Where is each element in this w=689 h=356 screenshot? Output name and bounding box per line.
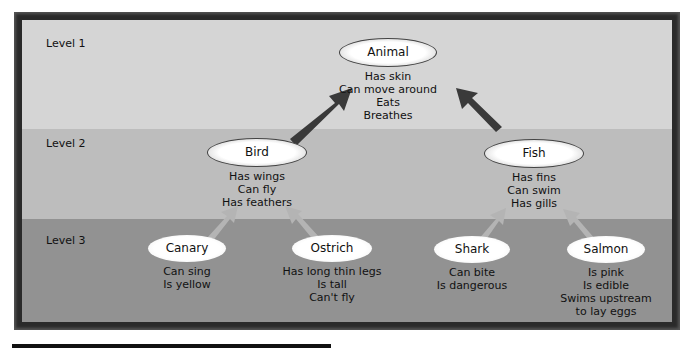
bird-name: Bird: [245, 145, 269, 159]
canary-properties: Can sing Is yellow: [142, 265, 232, 291]
fish-prop: Has gills: [479, 197, 589, 210]
diagram-canvas: Level 1 Level 2 Level 3: [22, 20, 672, 322]
horizontal-rule: [12, 344, 331, 348]
diagram-frame: Level 1 Level 2 Level 3: [14, 12, 680, 330]
bird-prop: Has feathers: [202, 196, 312, 209]
node-shark: Shark Can bite Is dangerous: [422, 236, 522, 292]
node-ostrich: Ostrich Has long thin legs Is tall Can't…: [272, 235, 392, 304]
arrow-fish-to-animal: [456, 88, 502, 132]
node-canary: Canary Can sing Is yellow: [142, 235, 232, 291]
fish-name: Fish: [522, 146, 545, 160]
canary-prop: Is yellow: [142, 278, 232, 291]
animal-prop: Can move around: [328, 83, 448, 96]
ostrich-prop: Is tall: [272, 278, 392, 291]
fish-prop: Can swim: [479, 184, 589, 197]
animal-oval: Animal: [339, 38, 437, 67]
bird-oval: Bird: [207, 138, 307, 167]
salmon-name: Salmon: [584, 242, 629, 256]
shark-oval: Shark: [434, 236, 510, 263]
canary-prop: Can sing: [142, 265, 232, 278]
salmon-oval: Salmon: [567, 236, 645, 263]
animal-properties: Has skin Can move around Eats Breathes: [328, 70, 448, 122]
canary-name: Canary: [166, 241, 209, 255]
node-bird: Bird Has wings Can fly Has feathers: [202, 138, 312, 209]
ostrich-prop: Has long thin legs: [272, 265, 392, 278]
fish-prop: Has fins: [479, 171, 589, 184]
shark-prop: Is dangerous: [422, 279, 522, 292]
salmon-prop: to lay eggs: [551, 305, 661, 318]
node-fish: Fish Has fins Can swim Has gills: [479, 139, 589, 210]
shark-properties: Can bite Is dangerous: [422, 266, 522, 292]
animal-prop: Eats: [328, 96, 448, 109]
salmon-properties: Is pink Is edible Swims upstream to lay …: [551, 266, 661, 318]
salmon-prop: Is pink: [551, 266, 661, 279]
fish-properties: Has fins Can swim Has gills: [479, 171, 589, 210]
node-salmon: Salmon Is pink Is edible Swims upstream …: [551, 236, 661, 318]
salmon-prop: Swims upstream: [551, 292, 661, 305]
fish-oval: Fish: [484, 139, 584, 168]
node-animal: Animal Has skin Can move around Eats Bre…: [328, 38, 448, 122]
animal-name: Animal: [367, 45, 409, 59]
bird-properties: Has wings Can fly Has feathers: [202, 170, 312, 209]
ostrich-name: Ostrich: [311, 241, 354, 255]
shark-name: Shark: [455, 242, 489, 256]
ostrich-oval: Ostrich: [292, 235, 372, 262]
shark-prop: Can bite: [422, 266, 522, 279]
salmon-prop: Is edible: [551, 279, 661, 292]
animal-prop: Has skin: [328, 70, 448, 83]
ostrich-prop: Can't fly: [272, 291, 392, 304]
canary-oval: Canary: [148, 235, 226, 262]
bird-prop: Has wings: [202, 170, 312, 183]
ostrich-properties: Has long thin legs Is tall Can't fly: [272, 265, 392, 304]
bird-prop: Can fly: [202, 183, 312, 196]
animal-prop: Breathes: [328, 109, 448, 122]
